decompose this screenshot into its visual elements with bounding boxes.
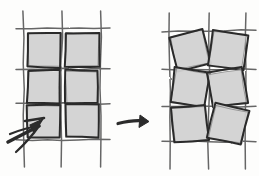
square-R-r2c1 bbox=[170, 67, 210, 108]
square-fill bbox=[208, 30, 247, 69]
square-R-r3c1 bbox=[171, 105, 210, 143]
square-fill bbox=[27, 71, 61, 104]
square-L-r2c2 bbox=[65, 70, 99, 105]
square-fill bbox=[64, 33, 99, 66]
square-R-r1c1 bbox=[169, 29, 210, 72]
square-L-r2c1 bbox=[27, 70, 62, 105]
square-L-r1c1 bbox=[27, 33, 62, 68]
square-fill bbox=[65, 70, 98, 104]
square-R-r1c2 bbox=[208, 30, 248, 70]
square-fill bbox=[171, 105, 209, 142]
square-fill bbox=[27, 33, 62, 68]
square-R-r2c2 bbox=[207, 67, 248, 108]
square-R-r3c2 bbox=[207, 103, 250, 145]
grid-line-horizontal-0 bbox=[16, 28, 110, 29]
sketch-figure: Grid of squares before and after rotatio… bbox=[0, 0, 259, 176]
sketch-canvas bbox=[0, 0, 259, 176]
square-L-r3c2 bbox=[64, 104, 99, 138]
square-L-r1c2 bbox=[64, 33, 99, 67]
square-fill bbox=[64, 104, 98, 138]
